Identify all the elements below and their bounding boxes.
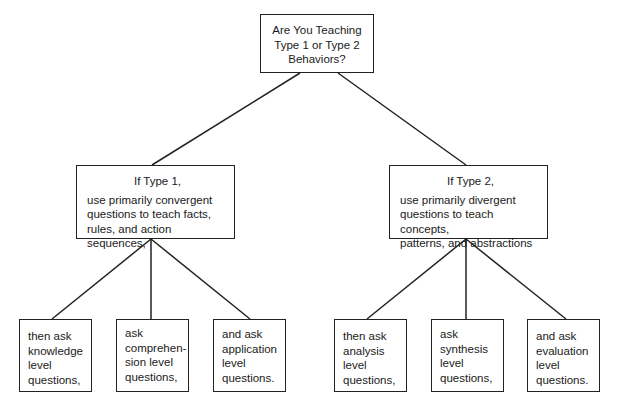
leaf-evaluation-box: and ask evaluation level questions. (527, 319, 600, 392)
leaf-analysis-box: then ask analysis level questions, (334, 319, 407, 392)
connector-type2-to-evaluation (466, 239, 566, 319)
type1-line-1: use primarily convergent (87, 193, 228, 208)
leaf-line: comprehen- (125, 341, 184, 356)
type1-line-3: rules, and action sequences, (87, 222, 228, 251)
leaf-synthesis-box: ask synthesis level questions, (431, 319, 504, 392)
leaf-line: questions, (440, 371, 499, 386)
leaf-application-box: and ask application level questions. (213, 319, 286, 392)
leaf-line: questions, (343, 373, 402, 388)
leaf-comprehension-box: ask comprehen- sion level questions, (116, 319, 189, 392)
leaf-line: level (536, 358, 595, 373)
leaf-line: level (222, 356, 281, 371)
type1-heading: If Type 1, (87, 174, 228, 189)
type2-line-3: patterns, and abstractions (400, 236, 541, 251)
leaf-line: synthesis (440, 342, 499, 357)
leaf-line: questions. (222, 371, 281, 386)
root-line-1: Are You Teaching (261, 23, 373, 38)
type2-line-1: use primarily divergent (400, 193, 541, 208)
leaf-line: sion level (125, 355, 184, 370)
leaf-line: application (222, 342, 281, 357)
leaf-line: and ask (536, 329, 595, 344)
connector-type1-to-knowledge (52, 239, 151, 319)
leaf-line: analysis (343, 344, 402, 359)
root-question-box: Are You Teaching Type 1 or Type 2 Behavi… (260, 14, 374, 73)
leaf-line: then ask (343, 329, 402, 344)
type1-box: If Type 1, use primarily convergent ques… (76, 165, 235, 239)
connector-type1-to-application (151, 239, 250, 319)
leaf-line: questions, (28, 373, 87, 388)
leaf-line: ask (440, 327, 499, 342)
type1-line-2: questions to teach facts, (87, 207, 228, 222)
leaf-line: and ask (222, 327, 281, 342)
leaf-line: level (28, 358, 87, 373)
connector-root-to-type2 (338, 73, 466, 165)
leaf-line: level (343, 358, 402, 373)
leaf-line: questions, (125, 370, 184, 385)
leaf-line: ask (125, 326, 184, 341)
type2-heading: If Type 2, (400, 174, 541, 189)
type2-line-2: questions to teach concepts, (400, 207, 541, 236)
leaf-knowledge-box: then ask knowledge level questions, (19, 319, 92, 392)
connector-root-to-type1 (152, 73, 300, 165)
leaf-line: knowledge (28, 344, 87, 359)
leaf-line: then ask (28, 329, 87, 344)
leaf-line: level (440, 356, 499, 371)
connector-type2-to-analysis (367, 239, 466, 319)
type2-box: If Type 2, use primarily divergent quest… (389, 165, 548, 239)
root-line-3: Behaviors? (261, 52, 373, 67)
root-line-2: Type 1 or Type 2 (261, 38, 373, 53)
leaf-line: evaluation (536, 344, 595, 359)
leaf-line: questions. (536, 373, 595, 388)
